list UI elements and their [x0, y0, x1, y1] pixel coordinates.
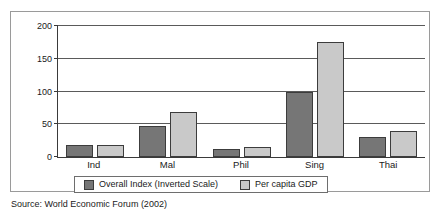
legend-swatch-icon [84, 180, 94, 190]
bar-phil-series-0 [213, 149, 240, 158]
x-axis-label-mal: Mal [131, 160, 205, 170]
y-axis-label: 200 [37, 22, 52, 31]
legend-swatch-icon [240, 180, 250, 190]
legend-label: Per capita GDP [255, 180, 318, 189]
chart-plot-area: 050100150200 [57, 26, 425, 158]
bar-group-sing [278, 26, 351, 157]
bar-thai-series-1 [390, 131, 417, 157]
legend-label: Overall Index (Inverted Scale) [99, 180, 218, 189]
y-axis-label: 50 [42, 120, 52, 129]
y-axis-label: 100 [37, 87, 52, 96]
bar-group-ind [58, 26, 131, 157]
bar-ind-series-0 [66, 145, 93, 157]
legend-item-1: Per capita GDP [240, 180, 318, 190]
figure-frame: 050100150200 IndMalPhilSingThai Overall … [10, 11, 430, 192]
x-axis-label-ind: Ind [57, 160, 131, 170]
bar-group-thai [352, 26, 425, 157]
bar-sing-series-1 [317, 42, 344, 157]
x-axis-label-phil: Phil [204, 160, 278, 170]
bar-phil-series-1 [244, 147, 271, 157]
bar-series-layer [58, 26, 425, 157]
y-axis-label: 0 [47, 153, 52, 162]
x-axis-labels: IndMalPhilSingThai [57, 160, 425, 170]
bar-group-phil [205, 26, 278, 157]
bar-mal-series-1 [170, 112, 197, 157]
x-axis-label-sing: Sing [278, 160, 352, 170]
bar-thai-series-0 [359, 137, 386, 157]
bar-ind-series-1 [97, 145, 124, 157]
bar-group-mal [131, 26, 204, 157]
bar-sing-series-0 [286, 92, 313, 158]
chart-legend: Overall Index (Inverted Scale)Per capita… [74, 176, 328, 193]
bar-mal-series-0 [139, 126, 166, 157]
x-axis-label-thai: Thai [351, 160, 425, 170]
source-caption: Source: World Economic Forum (2002) [11, 200, 167, 209]
y-axis-label: 150 [37, 54, 52, 63]
legend-item-0: Overall Index (Inverted Scale) [84, 180, 218, 190]
